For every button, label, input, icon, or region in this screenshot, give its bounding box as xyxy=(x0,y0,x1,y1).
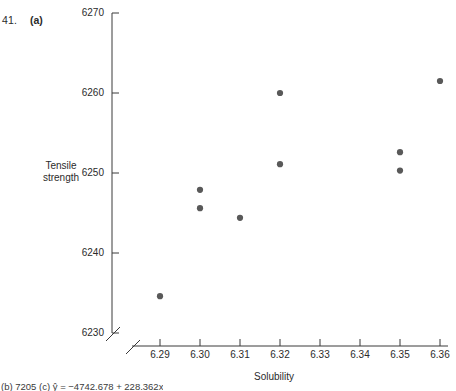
y-tick-label: 6260 xyxy=(58,87,104,98)
data-point xyxy=(437,78,443,84)
x-tick-label: 6.29 xyxy=(140,349,180,360)
data-points-group xyxy=(157,78,443,299)
footer-answer-note: (b) 7205 (c) ŷ = −4742.678 + 228.362x xyxy=(1,380,163,391)
y-tick-label: 6250 xyxy=(58,167,104,178)
y-axis-break-mark xyxy=(106,327,120,341)
data-point xyxy=(397,149,403,155)
x-axis-title: Solubility xyxy=(218,371,330,382)
data-point xyxy=(237,215,243,221)
y-tick-label: 6240 xyxy=(58,247,104,258)
x-tick-label: 6.34 xyxy=(340,349,380,360)
data-point xyxy=(277,161,283,167)
y-tick-label: 6270 xyxy=(58,7,104,18)
x-tick-label: 6.35 xyxy=(380,349,420,360)
x-tick-label: 6.32 xyxy=(260,349,300,360)
y-tick-label: 6230 xyxy=(58,327,104,338)
data-point xyxy=(157,293,163,299)
x-tick-label: 6.33 xyxy=(300,349,340,360)
data-point xyxy=(197,205,203,211)
x-tick-label: 6.30 xyxy=(180,349,220,360)
x-axis-break-mark xyxy=(126,340,140,354)
axes-group xyxy=(106,13,448,354)
data-point xyxy=(197,187,203,193)
data-point xyxy=(397,167,403,173)
data-point xyxy=(277,90,283,96)
x-tick-label: 6.36 xyxy=(420,349,456,360)
scatter-plot-figure: 41. (a) Tensile strength Solubility 6230… xyxy=(0,0,456,391)
x-tick-label: 6.31 xyxy=(220,349,260,360)
